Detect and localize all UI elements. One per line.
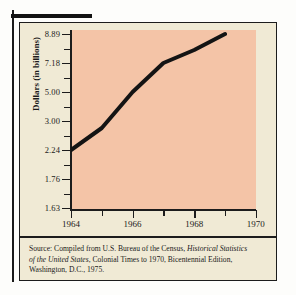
x-tick-1970 bbox=[256, 210, 257, 218]
y-tick-major-4 bbox=[62, 150, 71, 151]
x-tick-1966 bbox=[133, 210, 134, 218]
plot-region: Dollars (in billions) 8.89 7.18 5.00 3.0… bbox=[20, 23, 276, 236]
y-tick-minor-5 bbox=[64, 194, 71, 195]
left-margin-rule bbox=[12, 10, 14, 282]
figure-container: Dollars (in billions) 8.89 7.18 5.00 3.0… bbox=[0, 0, 296, 295]
chart-card: Dollars (in billions) 8.89 7.18 5.00 3.0… bbox=[19, 22, 277, 281]
y-tick-label-2: 5.00 bbox=[26, 87, 60, 97]
source-line-1: Source: Compiled from U.S. Bureau of the… bbox=[29, 244, 267, 255]
y-tick-label-4: 2.24 bbox=[26, 145, 60, 155]
source-line-2-text: , Colonial Times to 1970, Bicentennial E… bbox=[89, 255, 233, 264]
y-tick-minor-4 bbox=[64, 165, 71, 166]
source-line-3: Washington, D.C., 1975. bbox=[29, 265, 267, 276]
y-tick-label-0: 8.89 bbox=[26, 29, 60, 39]
source-line-2: of the United States, Colonial Times to … bbox=[29, 255, 267, 266]
x-tick-1965 bbox=[102, 210, 103, 216]
top-thick-rule bbox=[11, 14, 92, 18]
y-tick-minor-3 bbox=[64, 136, 71, 137]
y-tick-minor-1 bbox=[64, 78, 71, 79]
x-tick-1967 bbox=[163, 210, 164, 216]
y-tick-major-6 bbox=[62, 208, 71, 209]
source-note: Source: Compiled from U.S. Bureau of the… bbox=[20, 237, 276, 276]
source-line-1-text: Source: Compiled from U.S. Bureau of the… bbox=[29, 244, 187, 253]
y-tick-major-5 bbox=[62, 179, 71, 180]
x-tick-1964 bbox=[71, 210, 72, 218]
y-tick-minor-2 bbox=[64, 107, 71, 108]
y-tick-label-6: 1.63 bbox=[26, 203, 60, 213]
x-tick-label-1966: 1966 bbox=[113, 219, 153, 229]
y-tick-minor-0 bbox=[64, 49, 71, 50]
x-tick-label-1970: 1970 bbox=[236, 219, 276, 229]
y-tick-label-5: 1.76 bbox=[26, 174, 60, 184]
y-tick-major-0 bbox=[62, 34, 71, 35]
y-tick-major-1 bbox=[62, 63, 71, 64]
y-tick-major-2 bbox=[62, 92, 71, 93]
x-tick-1968 bbox=[194, 210, 195, 218]
data-series-line bbox=[71, 30, 256, 209]
x-tick-label-1968: 1968 bbox=[174, 219, 214, 229]
y-tick-major-3 bbox=[62, 121, 71, 122]
y-tick-label-3: 3.00 bbox=[26, 116, 60, 126]
x-tick-label-1964: 1964 bbox=[51, 219, 91, 229]
source-line-1-italic: Historical Statistics bbox=[187, 244, 247, 253]
x-tick-1969 bbox=[225, 210, 226, 216]
y-tick-label-1: 7.18 bbox=[26, 58, 60, 68]
source-line-2-italic: of the United States bbox=[29, 255, 89, 264]
